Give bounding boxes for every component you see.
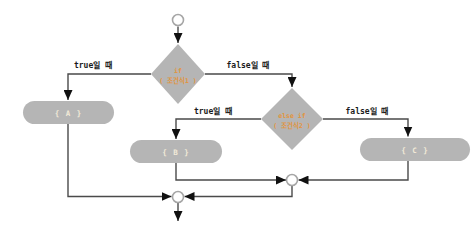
connector-if-true-to-a <box>68 74 151 100</box>
edge-label-elseif-false: false일 때 <box>346 106 389 116</box>
edge-label-elseif-true: true일 때 <box>194 106 232 116</box>
merge-circle-upper <box>287 175 298 186</box>
connector-if-false-to-elseif <box>205 74 292 87</box>
block-b-label: { B } <box>162 148 190 157</box>
block-c-label: { C } <box>401 146 429 155</box>
edge-label-if-true: true일 때 <box>74 60 112 70</box>
merge-circle-lower <box>173 192 184 203</box>
start-circle <box>173 15 184 26</box>
elseif-diamond-label-line1: else if <box>278 112 305 120</box>
connector-c-to-merge1 <box>299 161 409 180</box>
flowchart-canvas: if ( 조건식1 ) else if ( 조건식2 ) { A } { B }… <box>0 0 475 238</box>
connector-merge1-to-merge2 <box>185 186 293 197</box>
connector-b-to-merge1 <box>176 163 286 180</box>
edge-label-if-false: false일 때 <box>227 60 270 70</box>
connector-elseif-false-to-c <box>323 119 408 137</box>
if-diamond-label-line1: if <box>174 67 182 75</box>
if-diamond-label-line2: ( 조건식1 ) <box>159 76 197 85</box>
elseif-diamond-label-line2: ( 조건식2 ) <box>273 121 311 130</box>
block-a-label: { A } <box>55 109 83 118</box>
connector-elseif-true-to-b <box>176 119 261 139</box>
